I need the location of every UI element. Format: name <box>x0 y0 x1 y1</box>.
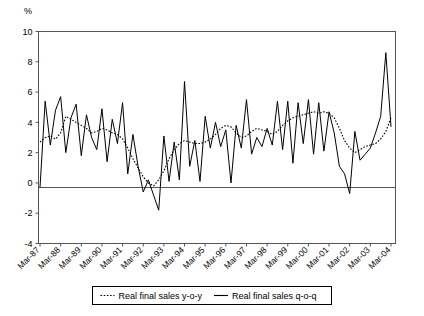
x-tick-label: Mar-93 <box>139 245 165 271</box>
x-tick-label: Mar-91 <box>98 245 124 271</box>
y-tick-label: 10 <box>22 27 32 37</box>
y-tick-label: -2 <box>24 208 32 218</box>
y-tick-label: 2 <box>27 148 32 158</box>
x-axis-ticks: Mar-87Mar-88Mar-89Mar-90Mar-91Mar-92Mar-… <box>15 244 392 271</box>
y-tick-label: 0 <box>27 178 32 188</box>
x-tick-label: Mar-99 <box>263 245 289 271</box>
x-tick-label: Mar-01 <box>304 245 330 271</box>
x-tick-label: Mar-94 <box>160 245 186 271</box>
y-axis-ticks: 1086420-2-4 <box>22 27 38 249</box>
x-tick-label: Mar-90 <box>77 245 103 271</box>
legend-label-1: Real final sales y-o-y <box>119 291 203 301</box>
chart-container: % 1086420-2-4 Mar-87Mar-88Mar-89Mar-90Ma… <box>0 0 424 316</box>
x-tick-label: Mar-97 <box>222 245 248 271</box>
data-series <box>40 53 391 210</box>
x-tick-label: Mar-03 <box>346 245 372 271</box>
x-tick-label: Mar-89 <box>57 245 83 271</box>
legend-label-2: Real final sales q-o-q <box>232 291 317 301</box>
x-tick-label: Mar-98 <box>242 245 268 271</box>
x-tick-label: Mar-92 <box>119 245 145 271</box>
y-tick-label: 6 <box>27 87 32 97</box>
line-chart: 1086420-2-4 Mar-87Mar-88Mar-89Mar-90Mar-… <box>0 0 424 316</box>
y-tick-label: 8 <box>27 57 32 67</box>
x-tick-label: Mar-00 <box>284 245 310 271</box>
y-tick-label: 4 <box>27 118 32 128</box>
x-tick-label: Mar-04 <box>366 245 392 271</box>
x-tick-label: Mar-95 <box>180 245 206 271</box>
chart-legend: Real final sales y-o-yReal final sales q… <box>93 287 332 305</box>
x-tick-label: Mar-88 <box>36 245 62 271</box>
series-path-2 <box>40 53 391 210</box>
x-tick-label: Mar-02 <box>325 245 351 271</box>
x-tick-label: Mar-96 <box>201 245 227 271</box>
